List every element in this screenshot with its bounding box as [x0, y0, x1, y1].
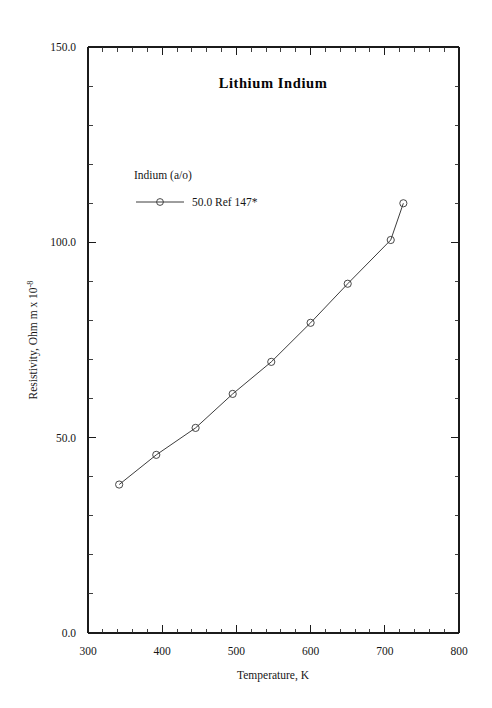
series-line: [119, 203, 403, 484]
figure-container: 3004005006007008000.050.0100.0150.0 Lith…: [0, 0, 492, 708]
chart-title: Lithium Indium: [219, 75, 328, 91]
tick-labels: 3004005006007008000.050.0100.0150.0: [50, 41, 468, 657]
x-tick-label: 300: [79, 645, 97, 657]
legend-entry-label: 50.0 Ref 147*: [192, 196, 258, 208]
y-axis-title-group: Resistivity, Ohm m x 10-8: [26, 281, 40, 400]
x-tick-label: 400: [154, 645, 172, 657]
x-axis-title: Temperature, K: [237, 669, 310, 682]
data-series-group: [116, 200, 407, 488]
y-tick-label: 50.0: [56, 432, 76, 444]
x-tick-label: 700: [376, 645, 394, 657]
x-tick-label: 800: [450, 645, 468, 657]
legend-title: Indium (a/o): [134, 169, 192, 182]
x-tick-label: 600: [302, 645, 320, 657]
resistivity-vs-temperature-chart: 3004005006007008000.050.0100.0150.0 Lith…: [0, 0, 492, 708]
y-axis-title-main: Resistivity, Ohm m x 10: [27, 287, 40, 399]
tick-marks: [88, 47, 459, 633]
y-tick-label: 0.0: [62, 627, 77, 639]
y-tick-label: 100.0: [50, 236, 76, 248]
y-axis-title-exponent: -8: [26, 281, 35, 288]
y-axis-title: Resistivity, Ohm m x 10-8: [26, 281, 40, 400]
plot-frame: [88, 47, 459, 633]
data-point-marker: [400, 200, 407, 207]
x-tick-label: 500: [228, 645, 246, 657]
y-tick-label: 150.0: [50, 41, 76, 53]
legend: Indium (a/o) 50.0 Ref 147*: [134, 169, 258, 208]
